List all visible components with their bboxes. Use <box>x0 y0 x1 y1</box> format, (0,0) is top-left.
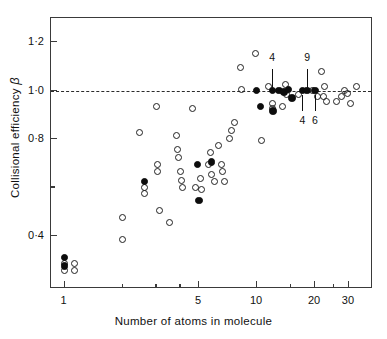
data-point-open <box>211 178 218 185</box>
y-tick-label-0·4: 0·4 <box>14 229 44 241</box>
data-point-open <box>197 175 204 182</box>
data-point-filled <box>195 197 203 205</box>
data-point-open <box>71 267 78 274</box>
data-point-open <box>321 83 328 90</box>
data-point-open <box>279 103 286 110</box>
data-point-open <box>252 50 259 57</box>
data-point-filled <box>311 87 319 95</box>
data-point-open <box>156 207 163 214</box>
data-point-filled <box>61 254 69 262</box>
data-point-open <box>166 219 173 226</box>
data-point-open <box>179 184 186 191</box>
data-point-open <box>344 90 351 97</box>
data-point-filled <box>285 86 293 94</box>
annotation-label-4: 4 <box>299 115 305 126</box>
data-point-filled <box>194 161 202 169</box>
x-axis-title: Number of atoms in molecule <box>0 315 387 327</box>
data-point-open <box>154 161 161 168</box>
data-point-open <box>71 260 78 267</box>
x-tick-label-30: 30 <box>342 294 354 306</box>
x-tick-4 <box>179 284 180 289</box>
data-point-filled <box>253 87 261 95</box>
x-tick-1 <box>64 281 65 288</box>
data-point-open <box>153 103 160 110</box>
x-tick-label-1: 1 <box>61 294 67 306</box>
data-point-open <box>215 142 222 149</box>
data-point-open <box>226 135 233 142</box>
annotation-leader-line <box>272 69 273 88</box>
y-tick-label-1·0: 1·0 <box>14 84 44 96</box>
data-point-open <box>189 105 196 112</box>
data-point-open <box>219 168 226 175</box>
data-point-open <box>177 168 184 175</box>
x-tick-15 <box>290 284 291 289</box>
y-tick-1 <box>50 90 57 91</box>
y-tick-0.8 <box>50 138 57 139</box>
data-point-filled <box>141 178 149 186</box>
y-tick-0.4 <box>50 235 57 236</box>
data-point-open <box>318 68 325 75</box>
data-point-open <box>231 119 238 126</box>
data-point-open <box>154 168 161 175</box>
data-point-open <box>228 127 235 134</box>
data-point-open <box>175 154 182 161</box>
annotation-label-4: 4 <box>269 52 275 63</box>
data-point-open <box>353 83 360 90</box>
data-point-open <box>174 146 181 153</box>
reference-line-1 <box>51 91 371 92</box>
annotation-label-9: 9 <box>304 52 310 63</box>
data-point-filled <box>61 262 69 270</box>
data-point-open <box>178 177 185 184</box>
data-point-open <box>119 236 126 243</box>
data-point-open <box>141 190 148 197</box>
data-point-open <box>173 132 180 139</box>
data-point-open <box>198 186 205 193</box>
y-tick-1.2 <box>50 41 57 42</box>
data-point-filled <box>208 158 216 166</box>
annotation-label-6: 6 <box>312 115 318 126</box>
data-point-open <box>323 98 330 105</box>
x-tick-label-5: 5 <box>195 294 201 306</box>
annotation-leader-line <box>307 69 308 88</box>
y-tick-0.6 <box>50 186 55 187</box>
x-tick-3 <box>155 284 156 289</box>
y-tick-label-0·8: 0·8 <box>14 132 44 144</box>
x-tick-10 <box>256 281 257 288</box>
data-point-filled <box>257 103 265 111</box>
x-tick-20 <box>314 281 315 288</box>
x-tick-30 <box>348 281 349 288</box>
annotation-leader-line <box>302 95 303 111</box>
x-tick-5 <box>198 281 199 288</box>
plot-area: 4946 <box>50 17 372 288</box>
data-point-open <box>136 129 143 136</box>
data-point-open <box>207 149 214 156</box>
x-tick-label-20: 20 <box>308 294 320 306</box>
y-tick-label-1·2: 1·2 <box>14 35 44 47</box>
x-tick-25 <box>333 284 334 289</box>
data-point-filled <box>269 107 277 115</box>
data-point-open <box>119 214 126 221</box>
data-point-open <box>218 161 225 168</box>
data-point-open <box>258 137 265 144</box>
data-point-open <box>221 178 228 185</box>
figure: 4946 Number of atoms in molecule Collisi… <box>0 0 387 339</box>
data-point-open <box>237 64 244 71</box>
data-point-filled <box>288 94 296 102</box>
x-tick-2 <box>122 284 123 289</box>
data-point-open <box>208 171 215 178</box>
data-point-open <box>347 100 354 107</box>
x-tick-label-10: 10 <box>250 294 262 306</box>
annotation-leader-line <box>315 95 316 111</box>
data-point-open <box>238 86 245 93</box>
